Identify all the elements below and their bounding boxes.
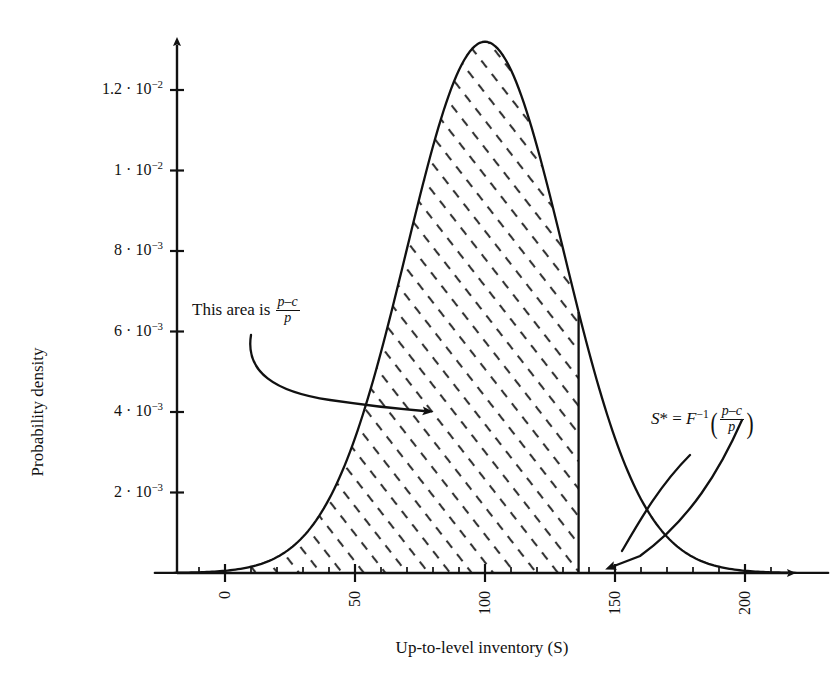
x-tick-label: 100 [476, 591, 494, 615]
x-axis-title: Up-to-level inventory (S) [396, 638, 569, 658]
y-tick-label: 1 · 10−2 [114, 159, 163, 179]
open-paren: ( [710, 406, 717, 440]
x-tick-label: 50 [346, 591, 364, 607]
x-tick-label: 150 [606, 591, 624, 615]
chart-canvas [0, 0, 836, 687]
sstar-equals: = [668, 409, 686, 428]
sstar-symbol: S [651, 409, 660, 428]
y-tick-label: 6 · 10−3 [114, 320, 163, 340]
area-annotation-text: This area is [192, 300, 275, 319]
sstar-annotation-leader [622, 455, 690, 551]
area-annotation-label: This area is p–cp [192, 295, 301, 325]
fraction-denominator: p [276, 311, 300, 326]
y-tick-label: 8 · 10−3 [114, 239, 163, 259]
sstar-annotation-arrow [614, 420, 742, 566]
y-tick-label: 4 · 10−3 [114, 400, 163, 420]
inverse-exponent: −1 [696, 408, 708, 421]
x-tick-label: 0 [216, 591, 234, 599]
fraction-numerator: p–c [720, 404, 744, 420]
close-paren: ) [746, 406, 753, 440]
y-axis-title: Probability density [28, 347, 48, 476]
inverse-cdf-symbol: F [686, 409, 696, 428]
fraction-denominator: p [720, 420, 744, 435]
sstar-fraction: p–cp [720, 404, 744, 434]
y-tick-label: 1.2 · 10−2 [102, 78, 163, 98]
area-annotation-fraction: p–cp [276, 295, 300, 325]
x-tick-label: 200 [736, 591, 754, 615]
fraction-numerator: p–c [276, 295, 300, 311]
probability-density-chart: Probability density Up-to-level inventor… [0, 0, 836, 687]
sstar-annotation-label: S* = F−1(p–cp) [651, 404, 755, 440]
sstar-star: * [660, 409, 669, 428]
y-tick-label: 2 · 10−3 [114, 481, 163, 501]
